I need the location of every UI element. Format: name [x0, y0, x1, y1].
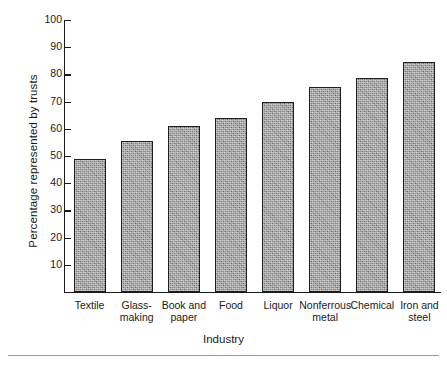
y-axis-tick: 50: [24, 156, 71, 157]
bar: [74, 159, 106, 292]
bar: [215, 118, 247, 292]
y-axis-tick-mark: [65, 238, 71, 239]
y-axis-tick-mark: [65, 47, 71, 48]
y-axis-tick-mark: [65, 102, 71, 103]
x-axis-title: Industry: [0, 333, 447, 345]
category-label-line: metal: [285, 312, 365, 324]
y-axis-tick-label: 70: [50, 95, 62, 107]
footer-divider: [8, 355, 439, 356]
bar-chart-figure: Percentage represented by trusts 1020304…: [0, 0, 447, 367]
y-axis-tick-label: 80: [50, 67, 62, 79]
y-axis-tick: 100: [24, 20, 71, 21]
y-axis-tick-mark: [65, 183, 71, 184]
y-axis-tick-label: 90: [50, 40, 62, 52]
category-label-line: steel: [379, 312, 447, 324]
y-axis-tick-label: 30: [50, 203, 62, 215]
bar: [121, 141, 153, 292]
y-axis-tick-label: 20: [50, 231, 62, 243]
y-axis-tick-label: 100: [44, 13, 62, 25]
y-axis-tick-label: 10: [50, 258, 62, 270]
bar: [262, 102, 294, 292]
y-axis-tick-mark: [65, 74, 71, 75]
y-axis-tick-mark: [65, 20, 71, 21]
plot-area: 102030405060708090100: [64, 20, 441, 292]
y-axis-tick-label: 60: [50, 122, 62, 134]
y-axis-tick: 10: [24, 265, 71, 266]
y-axis-tick-label: 40: [50, 176, 62, 188]
y-axis-tick: 30: [24, 210, 71, 211]
bar: [309, 87, 341, 292]
category-label-line: paper: [144, 312, 224, 324]
y-axis-tick-label: 50: [50, 149, 62, 161]
bar: [403, 62, 435, 292]
bar: [168, 126, 200, 292]
y-axis-tick-mark: [65, 129, 71, 130]
y-axis-tick: 40: [24, 183, 71, 184]
y-axis-tick-mark: [65, 210, 71, 211]
y-axis-tick: 20: [24, 238, 71, 239]
y-axis-tick: 70: [24, 102, 71, 103]
category-label-line: Iron and: [379, 300, 447, 312]
bar: [356, 78, 388, 292]
x-axis-line: [64, 292, 441, 293]
y-axis-tick-mark: [65, 156, 71, 157]
y-axis-tick-mark: [65, 265, 71, 266]
y-axis-tick: 60: [24, 129, 71, 130]
y-axis-tick: 80: [24, 74, 71, 75]
y-axis-tick: 90: [24, 47, 71, 48]
x-axis-category-label: Iron andsteel: [379, 300, 447, 323]
